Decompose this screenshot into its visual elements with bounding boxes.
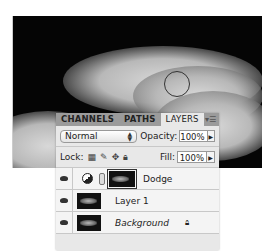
lock-position-icon[interactable]: ✥ [112, 152, 120, 162]
tab-paths[interactable]: PATHS [119, 113, 160, 126]
layer-thumbnail [77, 193, 101, 209]
layers-panel: CHANNELS PATHS LAYERS ▾☰ Normal ▲▼ Opaci… [56, 113, 219, 250]
lock-all-icon[interactable]: 🔒︎ [123, 152, 128, 163]
layer-row-background[interactable]: Background 🔒︎ [56, 212, 219, 234]
layer-thumbnail [77, 215, 101, 231]
blend-mode-select[interactable]: Normal ▲▼ [60, 130, 137, 143]
layers-list: Dodge Layer 1 Background 🔒︎ [56, 168, 219, 234]
layer-row-layer1[interactable]: Layer 1 [56, 190, 219, 212]
panel-tabs: CHANNELS PATHS LAYERS ▾☰ [56, 113, 219, 126]
opacity-slider-button[interactable]: ▶ [208, 130, 215, 142]
layer-name[interactable]: Background [115, 218, 169, 228]
brush-cursor [164, 71, 190, 97]
lock-transparent-icon[interactable]: ▦ [88, 152, 97, 162]
layer-name[interactable]: Dodge [143, 174, 172, 184]
fill-slider-button[interactable]: ▶ [207, 151, 215, 163]
fill-label: Fill: [160, 152, 175, 162]
visibility-eye-icon[interactable] [56, 190, 73, 211]
adjustment-layer-icon [82, 173, 93, 184]
layer-row-dodge[interactable]: Dodge [56, 168, 219, 190]
visibility-eye-icon[interactable] [56, 212, 73, 233]
fill-field[interactable]: 100% [177, 151, 207, 163]
lock-label: Lock: [60, 152, 84, 162]
lock-image-icon[interactable]: ✎ [100, 152, 108, 162]
updown-arrows-icon: ▲▼ [128, 131, 133, 141]
mask-link-icon[interactable] [99, 173, 105, 185]
opacity-field[interactable]: 100% [179, 130, 207, 142]
visibility-eye-icon[interactable] [56, 168, 73, 189]
layer-mask-thumbnail[interactable] [109, 171, 135, 187]
lock-icon: 🔒︎ [185, 218, 189, 228]
blend-mode-value: Normal [65, 131, 98, 141]
panel-menu-icon[interactable]: ▾☰ [205, 116, 215, 123]
opacity-label: Opacity: [140, 131, 177, 141]
layer-name[interactable]: Layer 1 [115, 196, 149, 206]
tab-layers[interactable]: LAYERS [161, 113, 204, 126]
tab-channels[interactable]: CHANNELS [56, 113, 119, 126]
